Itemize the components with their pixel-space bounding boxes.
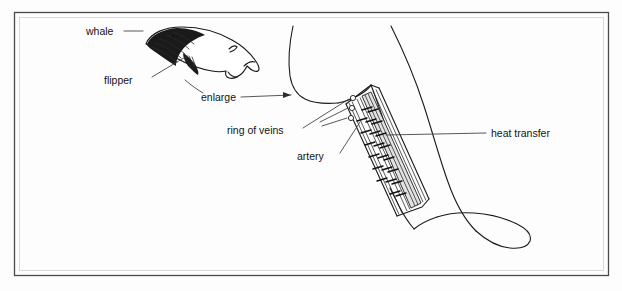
- vein-circle-2: [349, 105, 354, 110]
- label-artery: artery: [297, 150, 325, 162]
- vein-circle-3: [348, 115, 353, 120]
- whale-eye: [172, 35, 174, 37]
- label-whale: whale: [85, 25, 114, 37]
- whale-heat-transfer-diagram: whale flipper enlarge ring of veins arte…: [0, 0, 622, 291]
- label-heat-transfer: heat transfer: [491, 127, 550, 139]
- label-enlarge: enlarge: [201, 91, 236, 103]
- canvas-background: [0, 0, 622, 291]
- vein-circle-1: [350, 95, 355, 100]
- figure-root: whale flipper enlarge ring of veins arte…: [0, 0, 622, 291]
- label-ring-of-veins: ring of veins: [227, 124, 284, 136]
- label-flipper: flipper: [104, 74, 133, 86]
